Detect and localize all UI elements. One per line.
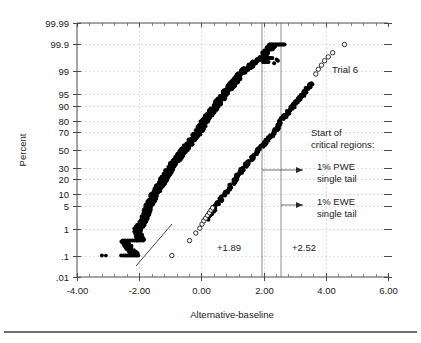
y-tick-label: 90: [58, 101, 69, 112]
pwe-value-label: +1.89: [217, 242, 241, 253]
pwe-label-line-1: 1% PWE: [317, 161, 355, 172]
y-tick-label: 99: [58, 66, 69, 77]
y-tick-label: 1: [64, 224, 69, 235]
y-tick-labels: 99.9999.999959080705030201051.1.01: [45, 18, 69, 283]
pwe-label-line-2: single tail: [317, 173, 357, 184]
y-tick-label: 99.9: [51, 39, 70, 50]
y-tick-label: 95: [58, 89, 69, 100]
y-axis-title: Percent: [17, 133, 28, 166]
ewe-label-line-1: 1% EWE: [317, 196, 355, 207]
y-tick-label: 70: [58, 127, 69, 138]
x-tick-label: -4.00: [67, 285, 89, 296]
x-axis-title: Alternative-baseline: [190, 309, 273, 320]
y-tick-label: 99.99: [45, 18, 69, 29]
x-tick-label: 0.00: [192, 285, 211, 296]
y-tick-label: .1: [61, 251, 69, 262]
probability-plot-figure: 99.9999.999959080705030201051.1.01 -4.00…: [0, 0, 421, 343]
y-tick-label: 50: [58, 145, 69, 156]
x-tick-label: -2.00: [129, 285, 151, 296]
x-tick-label: 6.00: [379, 285, 398, 296]
critical-heading-line-1: Start of: [311, 127, 342, 138]
trial-label: Trial 6: [332, 64, 358, 75]
x-tick-labels: -4.00-2.000.002.004.006.00: [67, 285, 398, 296]
y-tick-label: 20: [58, 174, 69, 185]
x-tick-label: 2.00: [255, 285, 274, 296]
y-tick-label: 80: [58, 116, 69, 127]
y-tick-label: 5: [64, 201, 69, 212]
probability-plot-svg: 99.9999.999959080705030201051.1.01 -4.00…: [0, 0, 421, 343]
ewe-label-line-2: single tail: [317, 208, 357, 219]
y-tick-label: .01: [56, 272, 69, 283]
ewe-value-label: +2.52: [292, 242, 316, 253]
y-tick-label: 30: [58, 163, 69, 174]
y-tick-label: 10: [58, 189, 69, 200]
x-tick-label: 4.00: [317, 285, 336, 296]
critical-heading-line-2: critical regions:: [311, 139, 374, 150]
